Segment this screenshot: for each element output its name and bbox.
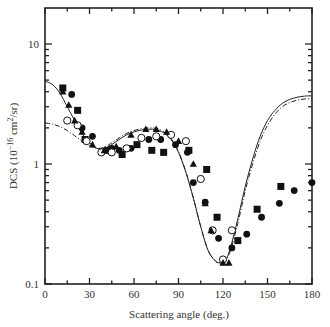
x-tick-label: 60 <box>129 288 141 300</box>
x-tick-label: 150 <box>259 288 276 300</box>
square-marker <box>160 149 167 156</box>
open-circle-marker <box>64 117 71 124</box>
square-marker <box>277 183 284 190</box>
axis-tick-labels: 03060901201501800.1110 <box>25 38 321 300</box>
theory-solid-curve <box>45 81 312 263</box>
square-marker <box>234 237 241 244</box>
square-marker <box>74 107 81 114</box>
open-circle-marker <box>197 175 204 182</box>
y-tick-label: 10 <box>28 38 40 50</box>
triangle-marker <box>142 125 149 132</box>
square-marker <box>148 147 155 154</box>
y-tick-label: 0.1 <box>25 278 39 290</box>
square-marker <box>133 141 140 148</box>
filled-circle-marker <box>243 231 250 238</box>
y-tick-label: 1 <box>34 158 40 170</box>
square-marker <box>254 206 261 213</box>
open-circle-marker <box>83 138 90 145</box>
square-marker <box>214 214 221 221</box>
theory-curves <box>45 81 312 263</box>
triangle-marker <box>71 117 78 124</box>
x-tick-label: 0 <box>42 288 48 300</box>
theory-dashdot-curve <box>45 99 312 263</box>
x-tick-label: 30 <box>84 288 96 300</box>
filled-circle-marker <box>229 244 236 251</box>
filled-circle-marker <box>145 136 152 143</box>
dcs-chart: 03060901201501800.1110 Scattering angle … <box>0 0 330 327</box>
square-marker <box>203 166 210 173</box>
triangle-marker <box>190 160 197 167</box>
filled-circle-marker <box>291 187 298 194</box>
x-tick-label: 120 <box>215 288 232 300</box>
triangle-marker <box>153 125 160 132</box>
x-tick-label: 90 <box>173 288 185 300</box>
open-circle-marker <box>182 138 189 145</box>
y-axis-title: DCS (10−16 cm2/sr) <box>6 103 20 190</box>
x-axis-title: Scattering angle (deg.) <box>129 308 229 321</box>
open-circle-marker <box>108 149 115 156</box>
open-circle-marker <box>228 227 235 234</box>
filled-circle-marker <box>68 91 75 98</box>
filled-circle-marker <box>258 214 265 221</box>
filled-circle-marker <box>89 133 96 140</box>
filled-circle-marker <box>184 149 191 156</box>
x-tick-label: 180 <box>304 288 321 300</box>
triangle-marker <box>175 137 182 144</box>
open-circle-marker <box>153 133 160 140</box>
open-circle-marker <box>138 134 145 141</box>
filled-circle-marker <box>309 179 316 186</box>
filled-circle-marker <box>190 179 197 186</box>
open-circle-marker <box>123 145 130 152</box>
filled-circle-marker <box>276 200 283 207</box>
filled-circle-marker <box>215 235 222 242</box>
